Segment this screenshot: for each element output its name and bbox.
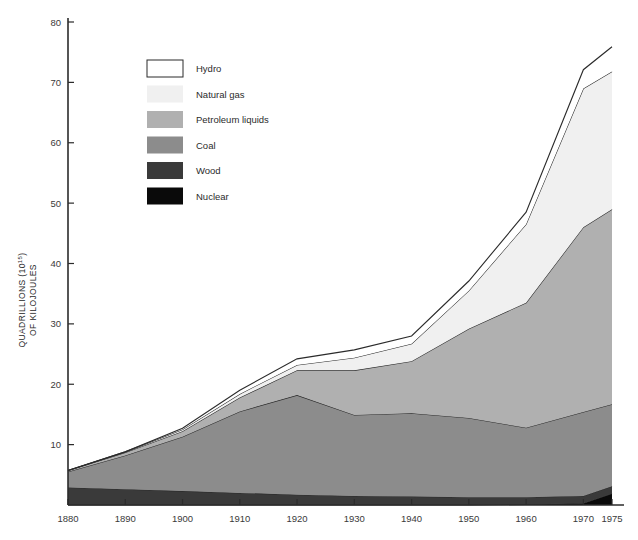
- legend-swatch-hydro: [147, 60, 183, 77]
- legend-label-nuclear: Nuclear: [196, 191, 229, 202]
- x-tick-label: 1940: [401, 513, 422, 524]
- x-tick-label: 1950: [458, 513, 479, 524]
- energy-consumption-area-chart: 1020304050607080 18801890190019101920193…: [0, 0, 638, 540]
- legend-swatch-wood: [147, 162, 183, 179]
- x-tick-label: 1970: [573, 513, 594, 524]
- legend-swatch-coal: [147, 137, 183, 154]
- svg-text:OF KILOJOULES: OF KILOJOULES: [28, 264, 38, 336]
- y-tick-label: 80: [50, 17, 61, 28]
- legend-swatch-natural-gas: [147, 86, 183, 103]
- x-tick-label: 1960: [516, 513, 537, 524]
- x-tick-label: 1880: [57, 513, 78, 524]
- y-axis-ticks: 1020304050607080: [50, 17, 74, 451]
- y-axis-title: QUADRILLIONS (1015) OF KILOJOULES: [17, 252, 38, 347]
- x-tick-label: 1890: [115, 513, 136, 524]
- legend-swatch-nuclear: [147, 188, 183, 205]
- legend-label-hydro: Hydro: [196, 63, 221, 74]
- chart-canvas: 1020304050607080 18801890190019101920193…: [0, 0, 638, 540]
- y-tick-label: 50: [50, 198, 61, 209]
- legend-label-petroleum-liquids: Petroleum liquids: [196, 114, 269, 125]
- x-tick-label: 1930: [344, 513, 365, 524]
- x-tick-label: 1900: [172, 513, 193, 524]
- legend-label-coal: Coal: [196, 140, 216, 151]
- legend-label-natural-gas: Natural gas: [196, 89, 245, 100]
- x-tick-label: 1920: [286, 513, 307, 524]
- chart-legend: HydroNatural gasPetroleum liquidsCoalWoo…: [147, 60, 269, 205]
- x-tick-label: 1975: [601, 513, 622, 524]
- y-tick-label: 10: [50, 439, 61, 450]
- legend-label-wood: Wood: [196, 165, 221, 176]
- svg-text:QUADRILLIONS (1015): QUADRILLIONS (1015): [17, 252, 27, 347]
- y-tick-label: 60: [50, 137, 61, 148]
- legend-swatch-petroleum-liquids: [147, 111, 183, 128]
- x-tick-label: 1910: [229, 513, 250, 524]
- y-tick-label: 30: [50, 318, 61, 329]
- y-tick-label: 70: [50, 77, 61, 88]
- y-tick-label: 20: [50, 379, 61, 390]
- y-tick-label: 40: [50, 258, 61, 269]
